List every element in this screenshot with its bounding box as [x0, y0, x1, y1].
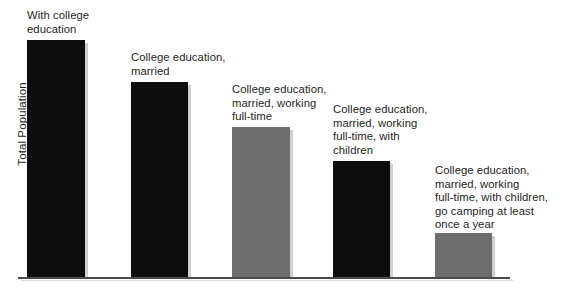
bar-label-line: married: [131, 65, 225, 79]
bar-label: With collegeeducation: [27, 9, 89, 36]
bar-label: College education,married, workingfull-t…: [435, 164, 548, 232]
bar[interactable]: [232, 127, 290, 277]
bar-label-line: full-time, with children,: [435, 191, 548, 205]
bar-label-line: married, working: [232, 97, 326, 111]
x-axis-line: [18, 277, 510, 279]
bar-label-line: full-time, with: [333, 130, 427, 144]
bar[interactable]: [131, 82, 188, 277]
bar-chart: Total Population With collegeeducationCo…: [0, 0, 563, 290]
bar[interactable]: [333, 161, 390, 277]
bar[interactable]: [435, 233, 492, 277]
bar-label-line: married, working: [435, 178, 548, 192]
bar-label-line: once a year: [435, 218, 548, 232]
bar-label: College education,married, workingfull-t…: [333, 103, 427, 157]
bar-label-line: children: [333, 144, 427, 158]
bar-label-line: go camping at least: [435, 205, 548, 219]
bar-label-line: married, working: [333, 117, 427, 131]
bar-label-line: College education,: [131, 51, 225, 65]
bar-label-line: College education,: [232, 83, 326, 97]
bar-label: College education,married: [131, 51, 225, 78]
bar-label-line: College education,: [435, 164, 548, 178]
bar-label-line: full-time: [232, 110, 326, 124]
bar-label: College education,married, workingfull-t…: [232, 83, 326, 124]
bar-label-line: With college: [27, 9, 89, 23]
bar-label-line: education: [27, 23, 89, 37]
bar-label-line: College education,: [333, 103, 427, 117]
x-axis-shadow: [21, 280, 513, 281]
bar[interactable]: [27, 40, 85, 277]
